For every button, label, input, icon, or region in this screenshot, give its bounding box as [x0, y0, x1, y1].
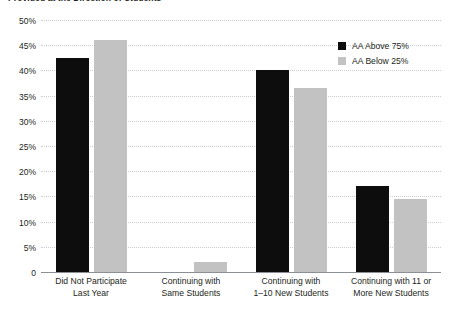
x-axis-labels: Did Not ParticipateLast YearContinuing w… [41, 276, 441, 316]
y-axis-tick-label: 50% [19, 16, 36, 26]
y-axis-tick-label: 10% [19, 218, 36, 228]
x-axis-label-line: Same Students [141, 288, 241, 300]
y-axis-tick-label: 5% [24, 243, 36, 253]
bar [356, 186, 389, 272]
x-axis-category-label: Did Not ParticipateLast Year [41, 276, 141, 316]
x-axis-category-label: Continuing with 11 orMore New Students [341, 276, 441, 316]
legend-label: AA Above 75% [352, 41, 409, 51]
y-axis-tick-label: 20% [19, 167, 36, 177]
legend-item: AA Below 25% [338, 56, 409, 66]
bar [194, 262, 227, 272]
y-axis-tick-label: 35% [19, 92, 36, 102]
bar [394, 199, 427, 272]
y-axis-tick-label: 0 [31, 268, 36, 278]
x-axis-category-label: Continuing with1–10 New Students [241, 276, 341, 316]
gridline: 50% [41, 20, 441, 21]
legend-swatch-icon [338, 57, 346, 65]
x-axis-category-label: Continuing withSame Students [141, 276, 241, 316]
x-axis-label-line: Continuing with [141, 276, 241, 288]
bar [94, 40, 127, 272]
x-axis-label-line: Did Not Participate [41, 276, 141, 288]
legend-item: AA Above 75% [338, 41, 409, 51]
chart-title: Provided at the Direction of Students [8, 0, 161, 3]
bar [56, 58, 89, 272]
x-axis-label-line: 1–10 New Students [241, 288, 341, 300]
y-axis-tick-label: 25% [19, 142, 36, 152]
y-axis-tick-label: 15% [19, 192, 36, 202]
y-axis-tick-label: 45% [19, 41, 36, 51]
x-axis-label-line: Last Year [41, 288, 141, 300]
axis-baseline: 0 [41, 272, 441, 273]
x-axis-label-line: Continuing with [241, 276, 341, 288]
bar [294, 88, 327, 272]
x-axis-label-line: Continuing with 11 or [341, 276, 441, 288]
x-axis-label-line: More New Students [341, 288, 441, 300]
chart-legend: AA Above 75%AA Below 25% [338, 41, 409, 71]
bar [256, 70, 289, 272]
legend-label: AA Below 25% [352, 56, 408, 66]
y-axis-tick-label: 40% [19, 66, 36, 76]
legend-swatch-icon [338, 42, 346, 50]
y-axis-tick-label: 30% [19, 117, 36, 127]
